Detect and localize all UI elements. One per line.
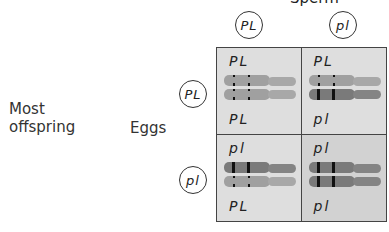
recessive-chromosome-icon	[309, 176, 381, 187]
allele-label: pl	[314, 198, 331, 214]
sperm-label: Sperm	[290, 0, 339, 7]
punnett-cell: PL PL	[217, 48, 302, 135]
egg-gamete-circle: pl	[179, 166, 207, 194]
allele-label: pl	[314, 140, 331, 156]
allele-label: PL	[314, 53, 334, 69]
punnett-cell: pl pl	[302, 135, 387, 222]
egg-gamete-circle: PL	[179, 80, 207, 108]
eggs-label: Eggs	[130, 119, 166, 137]
offspring-label: Most offspring	[9, 100, 75, 136]
sperm-gamete-circle: pl	[329, 11, 357, 39]
sperm-gamete-circle: PL	[235, 11, 263, 39]
recessive-chromosome-icon	[309, 89, 381, 100]
allele-label: pl	[314, 111, 331, 127]
punnett-cell: pl PL	[217, 135, 302, 222]
dominant-chromosome-icon	[224, 75, 296, 86]
punnett-cell: PL pl	[302, 48, 387, 135]
dominant-chromosome-icon	[309, 75, 381, 86]
dominant-chromosome-icon	[224, 176, 296, 187]
allele-label: PL	[229, 111, 249, 127]
recessive-chromosome-icon	[309, 162, 381, 173]
recessive-chromosome-icon	[224, 162, 296, 173]
dominant-chromosome-icon	[224, 89, 296, 100]
punnett-square: PL PL PL pl pl	[216, 47, 387, 222]
allele-label: PL	[229, 198, 249, 214]
allele-label: PL	[229, 53, 249, 69]
allele-label: pl	[229, 140, 246, 156]
